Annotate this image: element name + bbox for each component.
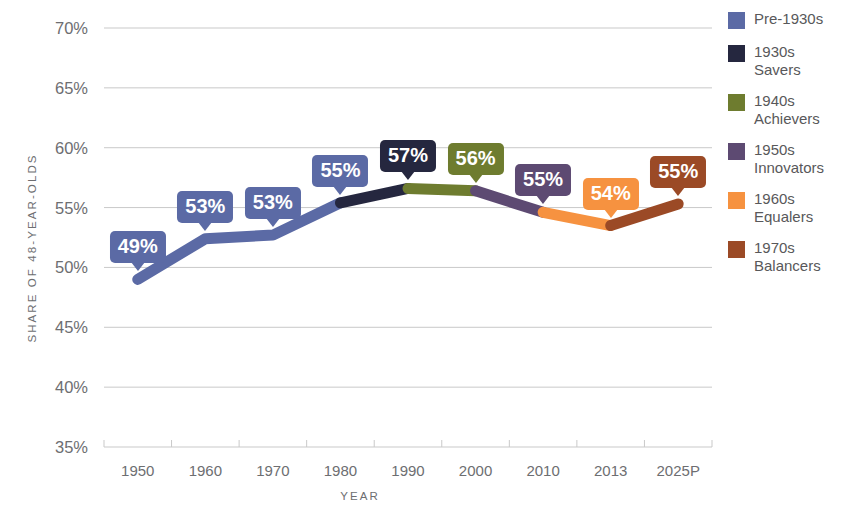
data-label-callout: 53% [177,191,233,223]
data-label-text: 49% [118,235,158,257]
data-label-callout: 55% [650,156,706,188]
legend-color-swatch-icon [728,241,745,258]
data-label-text: 53% [185,195,225,217]
data-label-text: 54% [591,182,631,204]
data-label-callout: 55% [312,155,368,187]
series-line [543,212,611,225]
legend-item[interactable]: 1950s Innovators [728,141,842,176]
data-label-text: 56% [456,147,496,169]
data-label-callout: 49% [110,231,166,263]
series-line [408,188,476,190]
data-label-text: 53% [253,191,293,213]
data-label-callout: 55% [515,164,571,196]
legend-color-swatch-icon [728,12,745,29]
data-label-text: 55% [320,159,360,181]
data-label-text: 55% [658,160,698,182]
chart-legend: Pre-1930s1930s Savers1940s Achievers1950… [728,10,842,288]
legend-item-label: 1960s Equalers [754,190,813,225]
legend-color-swatch-icon [728,94,745,111]
data-label-callout: 54% [583,178,639,210]
legend-color-swatch-icon [728,45,745,62]
data-label-text: 55% [523,168,563,190]
legend-item-label: 1940s Achievers [754,92,820,127]
legend-item[interactable]: 1940s Achievers [728,92,842,127]
legend-item-label: Pre-1930s [754,10,823,28]
data-label-callout: 53% [245,187,301,219]
data-label-text: 57% [388,144,428,166]
legend-item[interactable]: 1960s Equalers [728,190,842,225]
legend-item[interactable]: 1970s Balancers [728,239,842,274]
legend-color-swatch-icon [728,192,745,209]
legend-color-swatch-icon [728,143,745,160]
legend-item[interactable]: Pre-1930s [728,10,842,29]
legend-item-label: 1970s Balancers [754,239,821,274]
data-label-callout: 57% [380,140,436,172]
legend-item[interactable]: 1930s Savers [728,43,842,78]
x-axis-line [104,440,712,447]
legend-item-label: 1950s Innovators [754,141,824,176]
legend-item-label: 1930s Savers [754,43,801,78]
series-line [340,188,408,202]
data-label-callout: 56% [448,143,504,175]
chart-container: SHARE OF 48-YEAR-OLDS YEAR 70%65%60%55%5… [0,0,842,516]
